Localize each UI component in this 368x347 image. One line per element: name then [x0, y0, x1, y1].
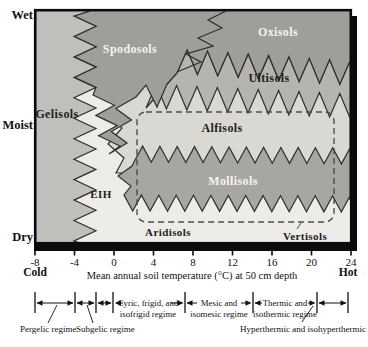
x-tick-label: 0	[111, 256, 117, 268]
label-aridisols: Aridisols	[145, 226, 191, 238]
label-spodosols: Spodosols	[103, 42, 157, 56]
regime-mesic-line2: isomesic regime	[190, 309, 248, 319]
regime-label-pergelic: Pergelic regime	[20, 324, 77, 334]
y-label-moist: Moist	[2, 118, 33, 132]
regime-cryic-line2: isofrigid regime	[120, 309, 177, 319]
region-gelisols	[36, 11, 96, 243]
y-label-wet: Wet	[11, 8, 33, 22]
arrowhead-icon	[178, 300, 184, 306]
x-tick-label: 8	[190, 256, 196, 268]
x-axis-ticks: -8-404812162024	[30, 251, 357, 268]
label-ultisols: Ultisols	[248, 71, 289, 85]
regime-cryic-line1: Cyric, frigid, and	[118, 298, 179, 308]
regime-thermic-line1: Thermic and	[263, 298, 308, 308]
arrowhead-icon	[310, 300, 316, 306]
label-gelisols: Gelisols	[35, 107, 78, 121]
arrowhead-icon	[319, 300, 325, 306]
x-axis-bar	[34, 242, 357, 251]
arrowhead-icon	[106, 300, 112, 306]
arrowhead-icon	[187, 300, 193, 306]
label-mollisols: Mollisols	[208, 174, 258, 188]
arrowhead-icon	[37, 300, 43, 306]
subgelic-leader-line	[87, 305, 93, 323]
arrowhead-icon	[68, 300, 74, 306]
plot-regions	[36, 11, 350, 243]
soil-order-figure: Spodosols Oxisols Ultisols Gelisols Alfi…	[0, 0, 368, 347]
arrowhead-icon	[89, 300, 95, 306]
arrowhead-icon	[98, 300, 104, 306]
x-label-cold: Cold	[23, 266, 47, 278]
x-tick-label: 4	[151, 256, 157, 268]
y-label-dry: Dry	[12, 230, 34, 244]
arrowhead-icon	[255, 300, 261, 306]
regime-label-subgelic: Subgelic regime	[76, 324, 135, 334]
arrowhead-icon	[77, 300, 83, 306]
x-axis-title: Mean annual soil temperature (°C) at 50 …	[87, 270, 298, 282]
x-tick-label: -4	[70, 256, 80, 268]
label-eih: EIH	[90, 188, 111, 200]
arrowhead-icon	[341, 300, 347, 306]
soil-temperature-diagram: Spodosols Oxisols Ultisols Gelisols Alfi…	[0, 0, 368, 347]
arrowhead-icon	[246, 300, 252, 306]
x-tick-label: 16	[267, 256, 279, 268]
label-oxisols: Oxisols	[258, 25, 298, 39]
regime-thermic-line2: isothermic regime	[253, 309, 317, 319]
label-alfisols: Alfisols	[201, 121, 242, 135]
x-tick-label: 12	[227, 256, 238, 268]
pergelic-leader-line	[48, 305, 57, 323]
regime-mesic-line1: Mesic and	[201, 298, 238, 308]
label-vertisols: Vertisols	[283, 230, 327, 242]
x-tick-label: 20	[306, 256, 318, 268]
x-label-hot: Hot	[339, 266, 358, 278]
regime-label-hyperthermic: Hyperthermic and isohyperthermic	[240, 324, 366, 334]
